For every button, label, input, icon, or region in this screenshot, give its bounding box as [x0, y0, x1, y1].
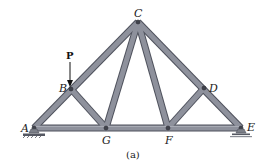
figure-caption: (a): [126, 149, 140, 160]
truss-diagram: P A B C D E F G (a): [0, 0, 267, 167]
load-arrow-P: [67, 62, 73, 87]
joint-label-A: A: [20, 122, 29, 135]
joint-label-D: D: [208, 82, 218, 95]
joint-F-pin: [166, 126, 170, 130]
truss-members-outline: [34, 22, 241, 128]
joint-C-pin: [136, 20, 140, 24]
joint-label-C: C: [134, 7, 143, 20]
joint-B-pin: [69, 87, 73, 91]
joint-label-B: B: [58, 82, 67, 95]
joint-D-pin: [202, 86, 206, 90]
load-label-P: P: [66, 50, 74, 61]
joint-label-G: G: [102, 134, 111, 147]
member-FD: [168, 88, 204, 128]
member-BG: [71, 89, 106, 128]
joint-label-F: F: [164, 134, 173, 147]
joint-pins: [32, 20, 243, 130]
joint-G-pin: [104, 126, 108, 130]
joint-label-E: E: [246, 121, 255, 134]
truss-members: [34, 22, 241, 128]
